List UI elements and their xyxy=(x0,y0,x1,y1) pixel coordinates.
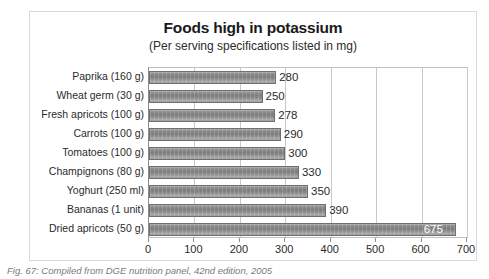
bar-value-label: 250 xyxy=(266,88,285,105)
bar-row: 278 xyxy=(149,106,467,125)
bar-row: 675 xyxy=(149,220,467,239)
category-label: Bananas (1 unit) xyxy=(67,200,144,219)
bar-value-label: 278 xyxy=(278,107,297,124)
x-tick-label: 200 xyxy=(230,243,248,255)
bar-value-label: 675 xyxy=(424,221,443,238)
x-tick-mark xyxy=(330,238,331,242)
plot-wrapper: Paprika (160 g)Wheat germ (30 g)Fresh ap… xyxy=(30,67,478,262)
bar-row: 300 xyxy=(149,144,467,163)
x-tick-mark xyxy=(466,238,467,242)
x-tick-mark xyxy=(421,238,422,242)
x-tick-label: 100 xyxy=(184,243,202,255)
x-tick-mark xyxy=(239,238,240,242)
x-tick-label: 600 xyxy=(411,243,429,255)
bar-row: 350 xyxy=(149,182,467,201)
chart-title: Foods high in potassium xyxy=(30,19,476,37)
bar xyxy=(149,185,308,198)
bar xyxy=(149,109,275,122)
bar xyxy=(149,223,456,236)
bar xyxy=(149,128,281,141)
category-label: Yoghurt (250 ml) xyxy=(67,181,144,200)
category-axis-labels: Paprika (160 g)Wheat germ (30 g)Fresh ap… xyxy=(30,67,148,238)
bar-row: 390 xyxy=(149,201,467,220)
x-tick-label: 300 xyxy=(275,243,293,255)
x-tick-label: 700 xyxy=(457,243,475,255)
category-label: Paprika (160 g) xyxy=(72,67,144,86)
category-label: Fresh apricots (100 g) xyxy=(41,105,144,124)
bar-row: 330 xyxy=(149,163,467,182)
bar-value-label: 300 xyxy=(288,145,307,162)
figure: Foods high in potassium (Per serving spe… xyxy=(0,0,489,279)
x-tick-label: 400 xyxy=(321,243,339,255)
gridline xyxy=(467,68,468,237)
x-tick-mark xyxy=(193,238,194,242)
category-label: Carrots (100 g) xyxy=(73,124,144,143)
chart-frame: Foods high in potassium (Per serving spe… xyxy=(29,11,477,261)
bar xyxy=(149,90,263,103)
bar-value-label: 280 xyxy=(279,69,298,86)
category-label: Champignons (80 g) xyxy=(49,162,144,181)
figure-caption: Fig. 67: Compiled from DGE nutrition pan… xyxy=(7,265,272,276)
bar-value-label: 330 xyxy=(302,164,321,181)
bar-value-label: 390 xyxy=(329,202,348,219)
bar xyxy=(149,147,285,160)
title-block: Foods high in potassium (Per serving spe… xyxy=(30,19,476,54)
category-label: Wheat germ (30 g) xyxy=(56,86,144,105)
bar xyxy=(149,166,299,179)
bar-row: 290 xyxy=(149,125,467,144)
plot-area: 280250278290300330350390675 xyxy=(148,67,468,238)
bar-row: 250 xyxy=(149,87,467,106)
chart-subtitle: (Per serving specifications listed in mg… xyxy=(30,38,476,54)
x-tick-mark xyxy=(284,238,285,242)
bar xyxy=(149,71,276,84)
x-tick-mark xyxy=(375,238,376,242)
x-tick-label: 0 xyxy=(145,243,151,255)
x-axis: 0100200300400500600700 xyxy=(148,238,468,262)
category-label: Dried apricots (50 g) xyxy=(49,219,144,238)
bar xyxy=(149,204,326,217)
x-tick-mark xyxy=(148,238,149,242)
bar-value-label: 290 xyxy=(284,126,303,143)
bar-value-label: 350 xyxy=(311,183,330,200)
category-label: Tomatoes (100 g) xyxy=(62,143,144,162)
bar-row: 280 xyxy=(149,68,467,87)
x-tick-label: 500 xyxy=(366,243,384,255)
